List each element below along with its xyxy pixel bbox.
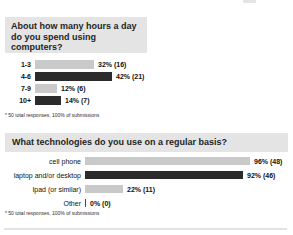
- category-label: 4-6: [0, 73, 31, 80]
- bar: [85, 157, 250, 165]
- cropped-text-artifact: [243, 0, 256, 3]
- chart1-footnote: * 50 total responses, 100% of submission…: [5, 112, 99, 118]
- category-label: 1-3: [0, 61, 31, 68]
- category-label: 10+: [0, 97, 31, 104]
- category-label: cell phone: [0, 158, 81, 165]
- bar-row: 1-332% (16): [0, 58, 293, 70]
- value-label: 92% (46): [247, 172, 275, 179]
- category-label: laptop and/or desktop: [0, 172, 81, 179]
- chart2-bars: cell phone96% (48)laptop and/or desktop9…: [0, 154, 293, 210]
- value-label: 0% (0): [90, 200, 111, 207]
- bar-row: cell phone96% (48): [0, 154, 293, 168]
- value-label: 32% (16): [98, 61, 126, 68]
- bar: [35, 72, 112, 81]
- bar: [35, 84, 57, 93]
- chart1-bars: 1-332% (16)4-642% (21)7-912% (6)10+14% (…: [0, 58, 293, 106]
- bar: [85, 199, 86, 207]
- value-label: 14% (7): [65, 97, 90, 104]
- value-label: 22% (11): [127, 186, 155, 193]
- bar-row: 10+14% (7): [0, 94, 293, 106]
- bar-row: 7-912% (6): [0, 82, 293, 94]
- bar-row: laptop and/or desktop92% (46): [0, 168, 293, 182]
- chart2-title: What technologies do you use on a regula…: [5, 133, 288, 152]
- bar: [85, 171, 243, 179]
- bar: [85, 185, 123, 193]
- bar-row: Ipad (or similar)22% (11): [0, 182, 293, 196]
- bottom-divider: [4, 228, 287, 230]
- category-label: Ipad (or similar): [0, 186, 81, 193]
- value-label: 96% (48): [254, 158, 282, 165]
- bar-row: 4-642% (21): [0, 70, 293, 82]
- bar: [35, 60, 94, 69]
- category-label: 7-9: [0, 85, 31, 92]
- value-label: 12% (6): [61, 85, 86, 92]
- chart1-title: About how many hours a day do you spend …: [5, 17, 147, 53]
- value-label: 42% (21): [116, 73, 144, 80]
- bar: [35, 96, 61, 105]
- category-label: Other: [0, 200, 81, 207]
- chart2-footnote: * 50 total responses, 100% of submission…: [5, 210, 99, 216]
- bar-row: Other0% (0): [0, 196, 293, 210]
